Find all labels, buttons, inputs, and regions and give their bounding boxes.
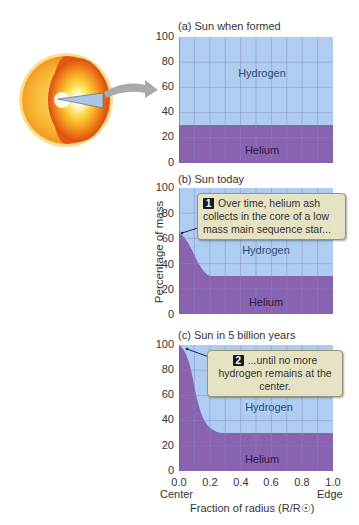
x-tick: 1.0 <box>318 476 348 488</box>
y-axis-label: Percentage of mass <box>153 187 165 317</box>
x-axis-label: Fraction of radius (R/R☉) <box>190 502 314 515</box>
x-tick: 0.0 <box>164 476 194 488</box>
helium-label-a: Helium <box>222 144 302 156</box>
y-tick: 60 <box>150 388 174 400</box>
y-tick: 20 <box>150 439 174 451</box>
callout-1: 1Over time, helium ash collects in the c… <box>197 193 346 240</box>
y-tick: 40 <box>150 105 174 117</box>
x-tick: 0.8 <box>287 476 317 488</box>
x-center-label: Center <box>160 488 193 500</box>
y-tick: 20 <box>150 130 174 142</box>
panel-c-title: (c) Sun in 5 billion years <box>178 329 295 341</box>
y-tick: 0 <box>150 464 174 476</box>
y-tick: 80 <box>150 363 174 375</box>
y-tick: 0 <box>150 156 174 168</box>
callout-1-number: 1 <box>203 198 214 209</box>
callout-2-number: 2 <box>233 355 244 366</box>
x-edge-label: Edge <box>317 488 343 500</box>
x-tick: 0.6 <box>256 476 286 488</box>
x-tick: 0.2 <box>195 476 225 488</box>
helium-label-b: Helium <box>226 296 306 308</box>
hydrogen-label-a: Hydrogen <box>222 67 302 79</box>
sun-cutaway-illustration <box>0 40 160 160</box>
y-tick: 60 <box>150 80 174 92</box>
y-tick: 100 <box>150 30 174 42</box>
helium-label-c: Helium <box>222 453 302 465</box>
hydrogen-label-b: Hydrogen <box>226 244 306 256</box>
x-tick: 0.4 <box>226 476 256 488</box>
panel-a-title: (a) Sun when formed <box>178 20 281 32</box>
hydrogen-label-c: Hydrogen <box>229 401 309 413</box>
panel-b-title: (b) Sun today <box>178 173 244 185</box>
y-tick: 100 <box>150 338 174 350</box>
y-tick: 40 <box>150 413 174 425</box>
callout-2: 2...until no more hydrogen remains at th… <box>207 350 343 397</box>
y-tick: 80 <box>150 55 174 67</box>
callout-1-text: Over time, helium ash collects in the co… <box>203 197 331 235</box>
